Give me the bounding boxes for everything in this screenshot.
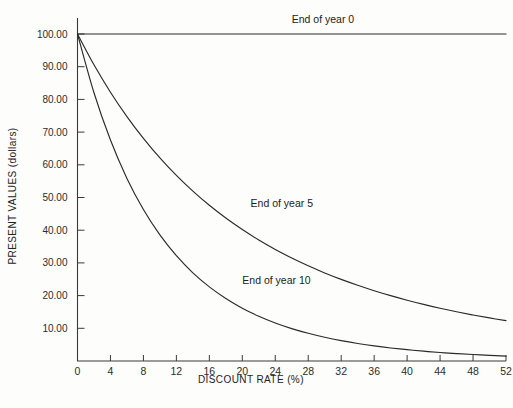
chart-page: 0481216202428323640444852 10.0020.0030.0… [0, 0, 513, 408]
svg-text:20.00: 20.00 [42, 290, 67, 301]
svg-text:90.00: 90.00 [42, 61, 67, 72]
svg-text:12: 12 [171, 365, 183, 377]
svg-text:80.00: 80.00 [42, 94, 67, 105]
svg-text:0: 0 [75, 365, 81, 377]
svg-text:8: 8 [141, 365, 147, 377]
svg-text:4: 4 [108, 365, 114, 377]
y-axis-title: PRESENT VALUES (dollars) [7, 127, 18, 264]
label-end-of-year-0: End of year 0 [292, 13, 355, 25]
svg-text:30.00: 30.00 [42, 257, 67, 268]
svg-text:100.00: 100.00 [37, 29, 68, 40]
svg-text:40: 40 [401, 365, 413, 377]
label-end-of-year-5: End of year 5 [251, 197, 314, 209]
axis-lines [78, 18, 507, 361]
svg-text:48: 48 [467, 365, 479, 377]
present-value-discount-chart: 0481216202428323640444852 10.0020.0030.0… [0, 0, 513, 408]
curve-end-of-year-10 [78, 34, 507, 356]
svg-text:52: 52 [500, 365, 512, 377]
svg-text:36: 36 [368, 365, 380, 377]
svg-text:70.00: 70.00 [42, 127, 67, 138]
series-annotations: End of year 0End of year 5End of year 10 [242, 13, 354, 287]
label-end-of-year-10: End of year 10 [242, 274, 310, 286]
svg-text:10.00: 10.00 [42, 323, 67, 334]
data-curves [78, 34, 507, 356]
svg-text:28: 28 [302, 365, 314, 377]
svg-text:32: 32 [335, 365, 347, 377]
svg-text:40.00: 40.00 [42, 225, 67, 236]
svg-text:44: 44 [434, 365, 446, 377]
x-axis-title: DISCOUNT RATE (%) [198, 374, 304, 385]
svg-text:50.00: 50.00 [42, 192, 67, 203]
svg-text:60.00: 60.00 [42, 159, 67, 170]
